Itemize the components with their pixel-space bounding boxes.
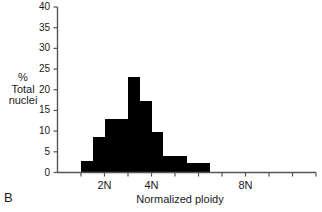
y-tick-label: 25 xyxy=(26,64,50,74)
y-tick-label: 15 xyxy=(26,105,50,115)
panel-label: B xyxy=(4,190,13,205)
y-tick-label: 40 xyxy=(26,2,50,12)
histogram-bar xyxy=(163,156,175,173)
x-tick-label: 4N xyxy=(137,179,167,191)
y-tick-label: 5 xyxy=(26,147,50,157)
x-tick-label: 8N xyxy=(231,179,261,191)
y-tick-label: 30 xyxy=(26,43,50,53)
histogram-bars xyxy=(81,77,210,172)
histogram-bar xyxy=(187,163,199,173)
histogram-bar xyxy=(152,132,164,173)
histogram-bar xyxy=(199,163,211,173)
histogram-figure: %Totalnuclei Normalized ploidy B 0510152… xyxy=(0,0,322,212)
histogram-bar xyxy=(81,161,93,172)
histogram-bar xyxy=(116,119,128,173)
histogram-bar xyxy=(175,156,187,173)
histogram-bar xyxy=(140,101,152,172)
histogram-bar xyxy=(93,137,105,172)
y-tick-label: 0 xyxy=(26,168,50,178)
x-axis-title: Normalized ploidy xyxy=(60,193,300,205)
histogram-bar xyxy=(105,119,117,173)
y-tick-label: 35 xyxy=(26,23,50,33)
histogram-bar xyxy=(128,77,140,172)
y-tick-label: 10 xyxy=(26,126,50,136)
y-axis-title-line3: nuclei xyxy=(9,94,38,106)
y-tick-label: 20 xyxy=(26,85,50,95)
x-tick-label: 2N xyxy=(90,179,120,191)
